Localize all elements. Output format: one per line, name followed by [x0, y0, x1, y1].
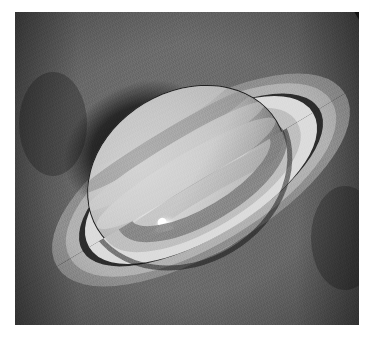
saturn-photograph	[15, 12, 359, 325]
saturn-scene-svg	[15, 12, 359, 325]
image-alt-text: Grayscale astronomical photograph of the…	[0, 16, 1, 17]
screenshot-root: Grayscale astronomical photograph of the…	[0, 0, 372, 337]
image-caption: Saturn with ring system tilted toward th…	[0, 16, 1, 17]
